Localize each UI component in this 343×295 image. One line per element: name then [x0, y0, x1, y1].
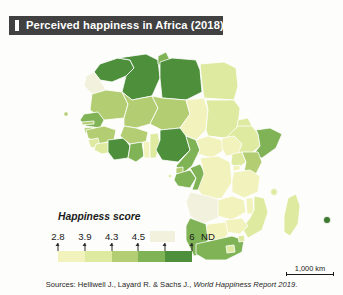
region-rwanda	[233, 165, 240, 171]
region-madagascar	[284, 194, 300, 236]
legend-arrow-4	[165, 243, 166, 251]
legend-swatch-4	[165, 251, 192, 262]
legend-tick-2: 4.3	[105, 232, 118, 242]
region-sao-tome	[168, 174, 172, 178]
legend-arrow-0	[58, 243, 59, 251]
region-car	[196, 136, 224, 158]
region-lesotho	[226, 245, 235, 253]
page-title: Perceived happiness in Africa (2018)	[26, 20, 224, 31]
region-cape-verde	[64, 112, 68, 116]
region-egypt	[200, 62, 238, 100]
region-libya	[160, 58, 202, 100]
legend-tick-1: 3.9	[78, 232, 91, 242]
legend-title: Happiness score	[58, 212, 192, 222]
sources-prefix: Sources: Helliwell J., Layard R. & Sachs…	[46, 280, 194, 289]
legend-color-swatches	[58, 251, 192, 262]
legend-swatch-2	[112, 251, 139, 262]
region-ghana	[128, 142, 144, 162]
legend-tick-0: 2.8	[51, 232, 64, 242]
map-figure: Perceived happiness in Africa (2018)	[0, 0, 343, 295]
sources-suffix: .	[295, 280, 297, 289]
region-togo	[143, 141, 150, 158]
region-zambia	[218, 196, 246, 220]
legend-swatch-0	[58, 251, 85, 262]
legend-nodata-swatch	[150, 231, 175, 242]
region-tanzania	[232, 170, 260, 198]
region-comoros	[271, 189, 278, 196]
scale-bar: 1,000 km	[286, 265, 334, 275]
region-gambia	[82, 121, 94, 125]
vertical-bar-icon	[15, 20, 19, 31]
legend-swatch-1	[85, 251, 112, 262]
region-mauritius	[323, 216, 330, 223]
region-dr-congo	[198, 156, 232, 200]
sources-publication: World Happiness Report 2019	[193, 280, 295, 289]
legend-arrow-5	[192, 243, 193, 251]
legend-nodata-label: ND	[201, 232, 215, 242]
legend-nodata: ND	[150, 231, 215, 242]
legend-tick-arrows	[58, 243, 192, 251]
sources-note: Sources: Helliwell J., Layard R. & Sachs…	[0, 281, 343, 289]
figure-title-bar: Perceived happiness in Africa (2018)	[9, 16, 223, 35]
legend-swatch-3	[138, 251, 165, 262]
legend-tick-3: 4.5	[132, 232, 145, 242]
region-eswatini	[238, 235, 245, 242]
scale-bar-rule	[286, 274, 334, 275]
legend-arrow-2	[111, 243, 112, 251]
legend-arrow-3	[138, 243, 139, 251]
legend-arrow-1	[84, 243, 85, 251]
scale-bar-label: 1,000 km	[286, 265, 334, 272]
